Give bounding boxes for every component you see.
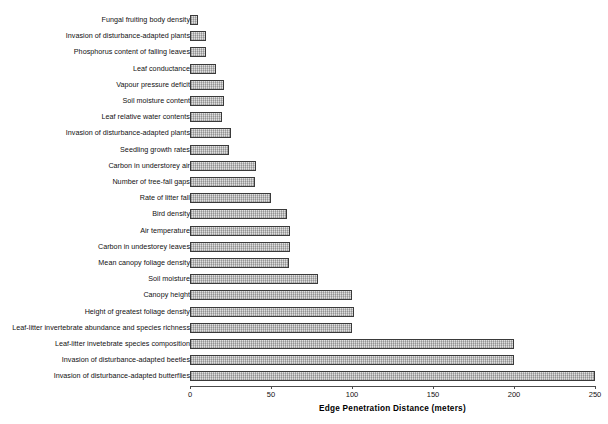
bar-row: Mean canopy foliage density <box>0 256 608 270</box>
bar-wrapper <box>190 15 198 25</box>
bar <box>190 323 352 333</box>
bar <box>190 31 206 41</box>
bar-row: Number of tree-fall gaps <box>0 175 608 189</box>
bar <box>190 339 514 349</box>
bar-wrapper <box>190 161 256 171</box>
bar-row: Height of greatest foliage density <box>0 305 608 319</box>
bar-row: Leaf relative water contents <box>0 110 608 124</box>
bar <box>190 242 290 252</box>
bar-row: Invasion of disturbance-adapted beetles <box>0 353 608 367</box>
edge-penetration-bar-chart: Fungal fruiting body densityInvasion of … <box>0 0 608 424</box>
bar-row: Soil moisture content <box>0 94 608 108</box>
bar-row: Leaf-litter invetebrate species composit… <box>0 337 608 351</box>
bar-category-label: Soil moisture <box>148 272 190 286</box>
bar-category-label: Leaf conductance <box>133 62 190 76</box>
bar-category-label: Carbon in understorey air <box>108 159 190 173</box>
bar-category-label: Mean canopy foliage density <box>98 256 190 270</box>
bar-wrapper <box>190 209 287 219</box>
bar-row: Rate of litter fall <box>0 191 608 205</box>
x-axis-tick <box>190 386 191 389</box>
bar-wrapper <box>190 128 231 138</box>
bar-row: Canopy height <box>0 288 608 302</box>
bar-category-label: Canopy height <box>143 288 190 302</box>
bar <box>190 274 318 284</box>
bar-category-label: Height of greatest foliage density <box>85 305 190 319</box>
bar <box>190 64 216 74</box>
bar-category-label: Invasion of disturbance-adapted butterfl… <box>54 369 190 383</box>
bar <box>190 96 224 106</box>
bar <box>190 193 271 203</box>
x-axis-title: Edge Penetration Distance (meters) <box>190 404 595 413</box>
bar <box>190 145 229 155</box>
x-axis-tick-label: 50 <box>267 390 275 399</box>
x-axis-line <box>190 386 595 387</box>
bar-wrapper <box>190 145 229 155</box>
bar-row: Carbon in undestorey leaves <box>0 240 608 254</box>
bar <box>190 161 256 171</box>
x-axis-tick-label: 150 <box>427 390 440 399</box>
bar-row: Vapour pressure deficit <box>0 78 608 92</box>
x-axis-tick-label: 200 <box>508 390 521 399</box>
bar-row: Bird density <box>0 207 608 221</box>
bar-category-label: Invasion of disturbance-adapted beetles <box>62 353 190 367</box>
x-axis-tick-label: 0 <box>188 390 192 399</box>
bar-wrapper <box>190 307 354 317</box>
x-axis-tick <box>433 386 434 389</box>
bar-row: Invasion of disturbance-adapted plants <box>0 126 608 140</box>
bar <box>190 307 354 317</box>
bar-category-label: Invasion of disturbance-adapted plants <box>66 126 190 140</box>
bar <box>190 15 198 25</box>
bar-wrapper <box>190 339 514 349</box>
x-axis-tick <box>352 386 353 389</box>
bar-wrapper <box>190 80 224 90</box>
x-axis-tick <box>271 386 272 389</box>
bar <box>190 258 289 268</box>
x-axis-tick-label: 100 <box>346 390 359 399</box>
bar-row: Soil moisture <box>0 272 608 286</box>
bar-category-label: Soil moisture content <box>122 94 190 108</box>
bar-wrapper <box>190 290 352 300</box>
bar <box>190 47 206 57</box>
bar-wrapper <box>190 355 514 365</box>
bar-row: Leaf conductance <box>0 62 608 76</box>
bar-row: Leaf-litter invertebrate abundance and s… <box>0 321 608 335</box>
bar-row: Carbon in understorey air <box>0 159 608 173</box>
bar-category-label: Number of tree-fall gaps <box>112 175 190 189</box>
bar-wrapper <box>190 193 271 203</box>
bar-wrapper <box>190 371 595 381</box>
bar-category-label: Rate of litter fall <box>140 191 190 205</box>
bar-category-label: Leaf-litter invetebrate species composit… <box>55 337 190 351</box>
bar-category-label: Phosphorus content of falling leaves <box>74 45 190 59</box>
bar-wrapper <box>190 242 290 252</box>
bar-category-label: Invasion of disturbance-adapted plants <box>66 29 190 43</box>
x-axis-tick <box>595 386 596 389</box>
bar <box>190 177 255 187</box>
bar-category-label: Leaf relative water contents <box>102 110 190 124</box>
bar <box>190 80 224 90</box>
bar-wrapper <box>190 258 289 268</box>
bar-wrapper <box>190 31 206 41</box>
bar-category-label: Vapour pressure deficit <box>116 78 190 92</box>
bar <box>190 112 222 122</box>
bar-row: Invasion of disturbance-adapted butterfl… <box>0 369 608 383</box>
bar <box>190 128 231 138</box>
bar-wrapper <box>190 112 222 122</box>
bar-category-label: Seedling growth rates <box>120 143 190 157</box>
bar <box>190 226 290 236</box>
bar <box>190 371 595 381</box>
bar-wrapper <box>190 177 255 187</box>
bar-wrapper <box>190 64 216 74</box>
bar-row: Fungal fruiting body density <box>0 13 608 27</box>
bar-row: Air temperature <box>0 224 608 238</box>
bar-wrapper <box>190 47 206 57</box>
bar-row: Phosphorus content of falling leaves <box>0 45 608 59</box>
bar-row: Invasion of disturbance-adapted plants <box>0 29 608 43</box>
x-axis-tick <box>514 386 515 389</box>
bar-category-label: Air temperature <box>140 224 190 238</box>
bar-wrapper <box>190 96 224 106</box>
bar-category-label: Leaf-litter invertebrate abundance and s… <box>12 321 190 335</box>
bar <box>190 355 514 365</box>
bar-category-label: Carbon in undestorey leaves <box>98 240 190 254</box>
x-axis-tick-label: 250 <box>589 390 602 399</box>
bar-row: Seedling growth rates <box>0 143 608 157</box>
